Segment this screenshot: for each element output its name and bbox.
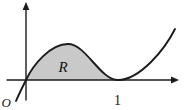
function-graph: O R 1	[0, 0, 184, 110]
x-tick-label-1: 1	[114, 93, 121, 108]
x-axis-arrowhead-icon	[171, 77, 179, 84]
y-axis-arrowhead-icon	[23, 2, 30, 10]
region-label: R	[58, 59, 68, 75]
figure-canvas: O R 1	[0, 0, 184, 110]
origin-label: O	[2, 95, 12, 110]
